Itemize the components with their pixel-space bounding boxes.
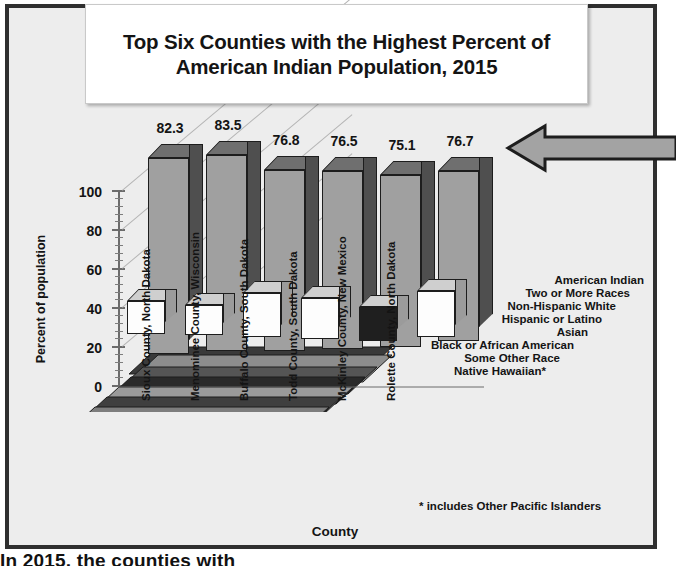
bar-value-label: 83.5	[200, 117, 256, 133]
bar-value-label: 75.1	[374, 137, 430, 153]
x-category-label-sioux: Sioux County, North Dakota	[140, 249, 152, 401]
x-category-label-todd: Todd County, South Dakota	[287, 251, 299, 401]
footnote: * includes Other Pacific Islanders	[419, 500, 601, 512]
bar-value-label: 82.3	[142, 120, 198, 136]
bar-value-label: 76.7	[432, 133, 488, 149]
x-category-label-buffalo: Buffalo County, South Dakota	[238, 239, 250, 401]
plot-area: Percent of population 100 80 60 40 20 0	[14, 112, 656, 549]
bottom-caption: In 2015, the counties with	[0, 549, 667, 566]
legend-label-non-hispanic-white: Non-Hispanic White	[316, 300, 616, 312]
chart-title: Top Six Counties with the Highest Percen…	[86, 29, 587, 79]
legend-label-some-other-race: Some Other Race	[260, 352, 560, 364]
bar-value-label: 76.8	[258, 132, 314, 148]
legend-label-black-or-african-american: Black or African American	[274, 339, 574, 351]
bottom-caption-text: In 2015, the counties with	[0, 550, 667, 566]
left-arrow-annotation	[505, 122, 676, 174]
x-category-label-rolette: Rolette County, North Dakota	[385, 241, 397, 401]
x-category-label-menominee: Menominee County, Wisconsin	[189, 232, 201, 401]
x-category-label-mckinley: McKinley County, New Mexico	[336, 236, 348, 401]
x-axis-title: County	[14, 524, 656, 539]
legend-label-asian: Asian	[288, 326, 588, 338]
bar-value-label: 76.5	[316, 133, 372, 149]
legend-label-two-or-more-races: Two or More Races	[330, 287, 630, 299]
chart-title-box: Top Six Counties with the Highest Percen…	[85, 4, 588, 104]
